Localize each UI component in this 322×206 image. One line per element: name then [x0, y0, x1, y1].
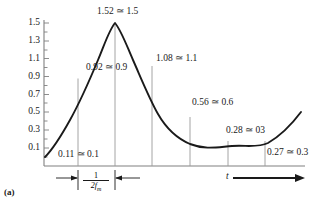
y-tick-label-1.1: 1.1 [18, 54, 40, 64]
sampling-interval-denominator: 2fm [83, 181, 109, 192]
sample-stems [78, 25, 265, 166]
t-axis-arrowhead [295, 174, 305, 182]
y-axis-ticks [44, 23, 49, 157]
sample-annotation-0.27: 0.27 ≃ 0.3 [267, 148, 308, 158]
interval-arrowhead-left [71, 175, 78, 180]
sampling-interval-label: 1 2fm [83, 172, 109, 193]
x-axis-label-t: t [226, 172, 229, 182]
y-tick-label-0.3: 0.3 [18, 125, 40, 135]
y-tick-label-0.1: 0.1 [18, 143, 40, 153]
panel-label: (a) [4, 188, 15, 197]
sampling-interval-numerator: 1 [83, 172, 109, 181]
sampling-interval-denominator-subscript: m [97, 186, 101, 192]
sample-annotation-0.92: 0.92 ≃ 0.9 [86, 63, 127, 73]
sample-annotation-1.52: 1.52 ≃ 1.5 [97, 7, 138, 17]
signal-curve [45, 23, 301, 157]
y-tick-label-0.7: 0.7 [18, 90, 40, 100]
sample-annotation-0.11: 0.11 ≃ 0.1 [58, 150, 99, 160]
chart-plot-area [0, 0, 322, 206]
figure-panel: 1.5 1.3 1.1 0.9 0.7 0.5 0.3 0.1 0.11 ≃ 0… [0, 0, 322, 206]
y-tick-label-0.5: 0.5 [18, 107, 40, 117]
sample-annotation-0.28: 0.28 ≃ 03 [226, 126, 265, 136]
y-tick-label-1.5: 1.5 [18, 18, 40, 28]
interval-arrowhead-right [115, 175, 122, 180]
y-tick-label-0.9: 0.9 [18, 72, 40, 82]
y-tick-label-1.3: 1.3 [18, 36, 40, 46]
sample-annotation-0.56: 0.56 ≃ 0.6 [192, 98, 233, 108]
sample-annotation-1.08: 1.08 ≃ 1.1 [156, 54, 197, 64]
